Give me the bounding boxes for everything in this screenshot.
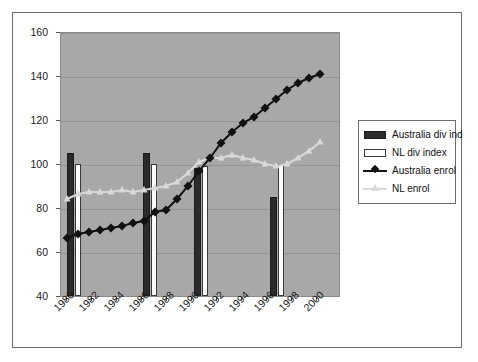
legend-label-australia-enrol: Australia enrol <box>392 165 456 177</box>
x-tick-label-2000: 2000 <box>301 288 326 313</box>
legend-item-nl-div-index: NL div index <box>363 144 451 162</box>
legend-item-australia-div-ind: Australia div ind <box>363 126 451 144</box>
legend-swatch-line-triangle-icon <box>363 180 387 198</box>
legend-label-nl-enrol: NL enrol <box>392 183 429 195</box>
x-tick-label-1980: 1980 <box>51 288 76 313</box>
legend-swatch-line-diamond-icon <box>363 162 387 180</box>
legend-item-australia-enrol: Australia enrol <box>363 162 451 180</box>
x-tick-label-1986: 1986 <box>126 288 151 313</box>
chart-figure: 160 140 120 100 80 60 40 1980 1982 1984 … <box>0 0 478 362</box>
x-tick-label-1994: 1994 <box>226 288 251 313</box>
legend-label-nl-div-index: NL div index <box>392 147 447 159</box>
chart-legend: Australia div ind NL div index Australia… <box>358 120 456 204</box>
x-tick-label-1992: 1992 <box>201 288 226 313</box>
x-tick-label-1990: 1990 <box>176 288 201 313</box>
x-tick-label-1988: 1988 <box>151 288 176 313</box>
x-tick-label-1996: 1996 <box>251 288 276 313</box>
legend-swatch-bar-light-icon <box>363 144 387 162</box>
x-tick-label-1984: 1984 <box>101 288 126 313</box>
x-tick-label-1998: 1998 <box>276 288 301 313</box>
legend-label-australia-div-ind: Australia div ind <box>392 129 463 141</box>
x-tick-label-1982: 1982 <box>76 288 101 313</box>
legend-swatch-bar-dark-icon <box>363 126 387 144</box>
legend-item-nl-enrol: NL enrol <box>363 180 451 198</box>
